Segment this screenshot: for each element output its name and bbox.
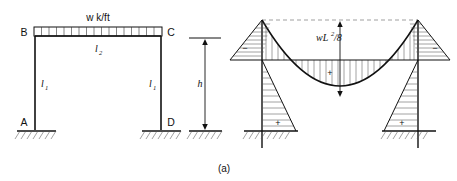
figure-caption: (a) xyxy=(218,163,230,174)
support-d-fixed xyxy=(140,131,181,139)
height-dim-arrow-up xyxy=(202,39,208,45)
height-dim-ground xyxy=(187,131,222,139)
height-dim-label: h xyxy=(198,78,203,89)
beam-length-label: l 2 xyxy=(95,43,103,56)
structural-figure-canvas: w k/ft B C A D l 2 l 1 xyxy=(0,0,457,181)
bending-moment-diagram-group: wL 2 /8 + xyxy=(226,18,454,155)
bmd-midspan-arrow-down xyxy=(337,91,342,97)
bmd-beam-region-sign: + xyxy=(327,68,332,78)
right-column-length-subscript: 1 xyxy=(153,84,156,91)
bmd-right-column-group: − xyxy=(380,20,454,148)
bmd-right-lower-sign: + xyxy=(399,118,404,128)
bmd-right-support xyxy=(381,131,436,139)
left-column-length-subscript: 1 xyxy=(45,84,48,91)
portal-frame-group: w k/ft B C A D l 2 l 1 xyxy=(15,12,181,139)
bmd-left-support xyxy=(243,131,298,139)
joint-label-c: C xyxy=(167,26,175,38)
load-block-ticks xyxy=(42,27,155,36)
load-block-outline xyxy=(34,27,162,36)
joint-label-b: B xyxy=(20,26,27,38)
bmd-midspan-label-tail: /8 xyxy=(333,32,342,43)
figure-root: w k/ft B C A D l 2 l 1 xyxy=(0,0,457,181)
left-column-length-label: l 1 xyxy=(41,78,48,91)
support-a-fixed xyxy=(15,131,56,139)
right-column-length-label: l 1 xyxy=(149,78,156,91)
frame-members xyxy=(35,36,161,130)
joint-label-d: D xyxy=(167,116,175,128)
height-dim-arrow-down xyxy=(202,124,208,130)
bmd-right-upper-sign: − xyxy=(432,43,437,53)
height-dimension-group: h xyxy=(187,38,222,139)
bmd-midspan-arrow-up xyxy=(337,21,342,27)
bmd-left-column-group: − xyxy=(226,20,300,148)
joint-label-a: A xyxy=(20,116,27,128)
beam-length-symbol: l xyxy=(95,43,98,54)
beam-length-subscript: 2 xyxy=(99,49,103,56)
left-column-length-symbol: l xyxy=(41,78,44,89)
bmd-midspan-label-lead: wL xyxy=(316,32,329,43)
bmd-left-lower-sign: + xyxy=(275,118,280,128)
right-column-length-symbol: l xyxy=(149,78,152,89)
bmd-left-upper-sign: − xyxy=(242,43,247,53)
uniform-load-label: w k/ft xyxy=(85,12,110,23)
bmd-midspan-label: wL 2 /8 xyxy=(316,30,342,43)
uniform-load-block xyxy=(34,27,162,36)
